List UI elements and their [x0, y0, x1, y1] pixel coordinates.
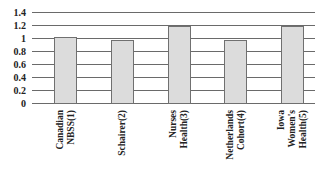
x-axis-label: Nurses	[168, 110, 178, 138]
y-tick-label: 0.4	[14, 72, 27, 83]
x-axis-label: NBSS(1)	[66, 110, 77, 145]
bar-3	[225, 41, 247, 104]
y-axis-ticks: 00.20.40.60.811.21.4	[14, 7, 27, 109]
y-tick-label: 1.2	[14, 20, 27, 31]
x-axis-label: Health(3)	[179, 110, 190, 149]
bar-4	[282, 27, 304, 104]
y-tick-label: 0	[21, 98, 26, 109]
y-tick-label: 0.6	[14, 59, 27, 70]
x-axis-label: Netherlands	[225, 110, 235, 160]
y-tick-label: 0.8	[14, 46, 27, 57]
bar-0	[55, 38, 77, 104]
x-axis-label: Schairer(2)	[117, 110, 128, 156]
bar-1	[112, 41, 134, 104]
y-tick-label: 1	[21, 33, 26, 44]
x-axis-label: Women's	[287, 110, 297, 148]
y-tick-label: 1.4	[14, 7, 27, 18]
bar-2	[169, 27, 191, 104]
x-axis-label: Cohort(4)	[236, 110, 247, 150]
x-axis-label: Health(5)	[298, 110, 309, 149]
bar-chart: 00.20.40.60.811.21.4 CanadianNBSS(1)Scha…	[0, 0, 321, 172]
y-tick-label: 0.2	[14, 85, 27, 96]
x-axis-label: Canadian	[55, 109, 65, 149]
x-axis-label: Iowa	[276, 110, 286, 130]
x-axis-labels: CanadianNBSS(1)Schairer(2)NursesHealth(3…	[55, 109, 309, 159]
